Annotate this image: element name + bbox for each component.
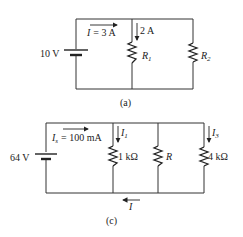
source-voltage-c: 64 V [10, 152, 30, 163]
total-current-label: I= 3 A [86, 27, 116, 38]
circuit-diagram: 10 V I= 3 A 2 A R1 R2 (a) 64 V Is= 1 [0, 0, 243, 237]
resistor-4k-icon [200, 147, 208, 166]
resistor-r1-icon [128, 42, 136, 63]
i1-label: I1 [120, 127, 128, 140]
circuit-c: 64 V Is= 100 mA I1 I3 1 kΩ R 4 kΩ I (c) [10, 123, 228, 227]
resistor-r2-icon [189, 43, 197, 62]
battery-icon [35, 154, 57, 159]
resistor-r-label: R [165, 151, 172, 162]
branch-current-label: 2 A [140, 25, 155, 36]
resistor-4k-label: 4 kΩ [208, 151, 228, 162]
source-current-label: Is= 100 mA [51, 132, 102, 145]
i3-label: I3 [211, 127, 219, 140]
resistor-r-icon [154, 146, 162, 166]
caption-c: (c) [106, 215, 117, 227]
battery-icon [64, 50, 88, 55]
resistor-1k-icon [109, 146, 117, 166]
caption-a: (a) [120, 97, 131, 109]
circuit-a: 10 V I= 3 A 2 A R1 R2 (a) [40, 19, 211, 109]
return-current-label: I [128, 201, 133, 212]
source-voltage-a: 10 V [40, 48, 60, 59]
resistor-r2-label: R2 [200, 50, 211, 63]
wire-bottom-c [46, 158, 204, 193]
resistor-r1-label: R1 [141, 50, 152, 63]
resistor-1k-label: 1 kΩ [118, 151, 138, 162]
